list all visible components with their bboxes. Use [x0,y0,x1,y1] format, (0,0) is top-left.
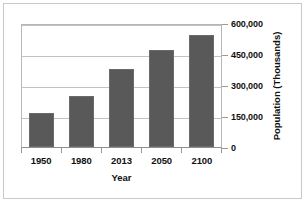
xtick-mark-0 [21,148,22,153]
x-axis-title: Year [21,172,222,183]
xtick-mark-4 [181,148,182,153]
xtick-label-1980: 1980 [61,155,101,166]
bar-slot-2013 [102,25,142,147]
bar-slot-2050 [141,25,181,147]
xtick-label-1950: 1950 [21,155,61,166]
xtick-mark-3 [141,148,142,153]
bar-2013[interactable] [109,69,134,148]
bar-2050[interactable] [149,50,174,147]
ytick-mark-150000 [222,117,228,118]
ytick-mark-0 [222,148,228,149]
bar-chart-figure: 600,000 450,000 300,000 150,000 0 1950 1… [0,0,305,202]
xtick-label-2050: 2050 [142,155,182,166]
bar-slot-1950 [22,25,62,147]
bar-series [22,25,221,147]
bar-1980[interactable] [69,96,94,147]
xtick-mark-1 [61,148,62,153]
xtick-mark-2 [101,148,102,153]
ytick-mark-600000 [222,24,228,25]
xtick-label-2100: 2100 [182,155,222,166]
plot-area [21,24,222,148]
x-axis-tick-labels: 1950 1980 2013 2050 2100 [21,155,222,166]
xtick-mark-5 [221,148,222,153]
xtick-label-2013: 2013 [101,155,141,166]
bar-slot-1980 [62,25,102,147]
bar-slot-2100 [181,25,221,147]
ytick-mark-450000 [222,55,228,56]
ytick-mark-300000 [222,86,228,87]
y-axis-title: Population (Thousands) [271,18,282,154]
bar-1950[interactable] [29,113,54,147]
bar-2100[interactable] [189,35,214,147]
